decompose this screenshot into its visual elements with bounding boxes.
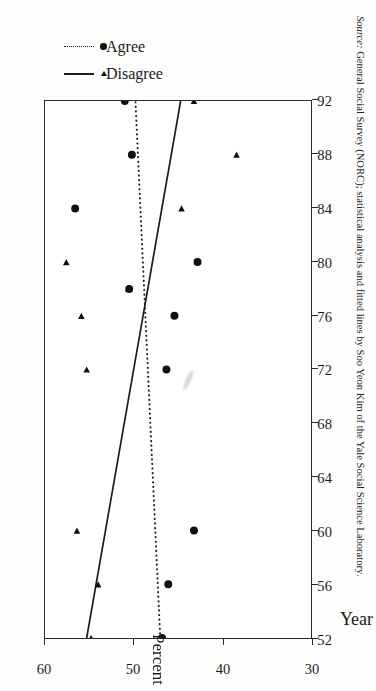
x-tick-label: 60 [317,524,332,541]
x-tick-label: 84 [317,201,332,218]
figure-canvas: 5256606468727680848892 Year 30405060 Per… [0,0,330,691]
legend-label-agree: Agree [106,38,145,56]
data-point-agree [170,312,178,320]
caption-body: General Social Survey (NORC); statistica… [355,49,366,577]
fit-line-agree [135,101,160,638]
legend-label-disagree: Disagree [106,65,163,83]
scatter-plot-svg [45,101,311,638]
y-axis-title: Percent [148,634,168,685]
data-point-disagree [191,101,198,104]
data-point-disagree [88,635,95,638]
x-tick-label: 72 [317,363,332,380]
legend-line-disagree [64,73,94,75]
legend-marker-triangle-icon [101,71,107,76]
data-point-agree [163,366,171,374]
data-point-agree [190,527,198,535]
plot-frame [44,100,312,639]
y-tick-label: 30 [305,661,320,678]
y-tick [312,639,313,645]
y-tick-label: 50 [126,661,141,678]
x-tick-label: 88 [317,147,332,164]
y-tick [133,639,134,645]
x-tick-label: 76 [317,309,332,326]
figure-caption: Source: General Social Survey (NORC); st… [353,16,366,676]
plot-area [45,101,311,638]
y-tick [44,639,45,645]
data-point-agree [71,204,79,212]
x-tick-label: 56 [317,578,332,595]
y-tick-label: 40 [215,661,230,678]
x-tick-label: 64 [317,471,332,488]
data-point-disagree [233,152,240,158]
data-point-disagree [178,205,185,211]
caption-source-label: Source: [355,16,366,49]
x-tick-label: 68 [317,417,332,434]
legend-line-agree [64,46,94,47]
data-point-agree [164,580,172,588]
data-point-agree [128,151,136,159]
data-point-disagree [63,259,70,265]
figure-rotator: 5256606468727680848892 Year 30405060 Per… [0,0,330,691]
x-tick-label: 92 [317,93,332,110]
data-point-disagree [83,366,90,372]
x-tick-label: 80 [317,255,332,272]
legend-marker-circle-icon [100,43,107,50]
x-tick-label: 52 [317,632,332,649]
chart-legend: DisagreeAgree [60,9,190,79]
y-tick-label: 60 [37,661,52,678]
y-tick [223,639,224,645]
data-point-agree [125,285,133,293]
data-point-disagree [78,313,85,319]
data-point-disagree [74,528,81,534]
data-point-agree [194,258,202,266]
data-point-agree [121,101,129,105]
